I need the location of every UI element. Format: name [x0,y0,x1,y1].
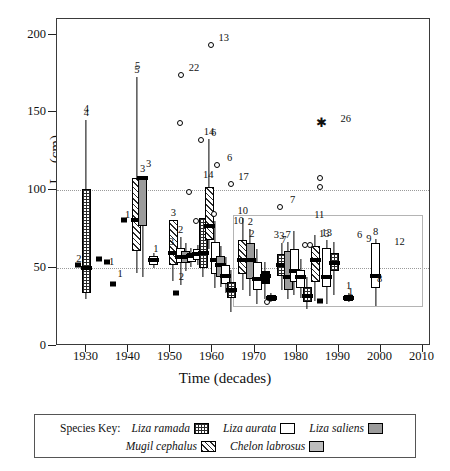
open-circle-point [208,42,214,48]
sample-size-label: 3 [169,237,174,247]
legend-row-2: Mugil cephalusChelon labrosus [41,437,409,455]
x-tick-label: 1970 [231,349,277,364]
sample-size-label: 1 [348,287,353,297]
sample-size-label: 13 [219,33,230,43]
sample-size-label: 9 [366,234,371,244]
box-whisker [330,242,339,295]
sample-size-label: 5 [135,61,140,71]
legend-swatch-saliens [368,423,383,434]
legend-item: Chelon labrosus [230,440,324,452]
x-tick-label: 1930 [62,349,108,364]
open-circle-point [178,72,184,78]
sample-size-label: 26 [340,114,351,124]
sample-size-label: 2 [178,225,183,235]
median-marker [137,176,148,180]
sample-size-label: 3 [171,208,176,218]
sample-size-label: 10 [233,216,244,226]
sample-size-label: 6 [227,153,232,163]
sample-size-label: 7 [281,235,286,245]
sample-size-label: 12 [394,237,405,247]
legend-item: Liza aurata [223,422,295,434]
legend-item-label: Liza ramada [131,422,189,434]
plot-area: ✱ 45332141023713181322661772645332141023… [56,18,430,345]
sample-size-label: 7 [290,195,295,205]
sample-size-label: 2 [248,217,253,227]
open-circle-point [177,120,183,126]
median-marker [198,251,209,255]
legend-item-label: Mugil cephalus [126,440,197,452]
open-circle-point [277,204,283,210]
legend-item-label: Liza aurata [223,422,276,434]
sample-size-label: 6 [357,230,362,240]
filled-square-point [96,256,102,261]
legend-item: Liza saliens [309,422,383,434]
legend-swatch-ramada [194,423,209,434]
species-key-legend: Species Key: Liza ramadaLiza aurataLiza … [34,414,416,458]
box-whisker [227,270,236,312]
y-tick-mark [48,34,56,35]
open-circle-point [186,189,192,195]
sample-size-label: 13 [319,229,330,239]
sample-size-label: 1 [153,244,158,254]
legend-title: Species Key: [60,422,120,434]
legend-swatch-aurata [280,423,295,434]
y-tick-mark [48,267,56,268]
sample-size-label: 3 [146,159,151,169]
filled-square-point [267,295,273,300]
box-whisker [149,253,158,269]
legend-item: Liza ramada [131,422,208,434]
star-point: ✱ [316,120,327,126]
x-tick-label: 1960 [188,349,234,364]
open-circle-point [264,299,270,305]
sample-size-label: 8 [377,274,382,284]
x-tick-label: 1950 [146,349,192,364]
sample-size-label: 2 [179,272,184,282]
median-marker [329,261,340,265]
legend-row-1-items: Liza ramadaLiza aurataLiza saliens [124,422,390,434]
open-circle-point [228,181,234,187]
open-circle-point [317,175,323,181]
x-axis-label: Time (decades) [0,370,450,387]
x-tick-label: 1940 [104,349,150,364]
median-marker [310,258,321,262]
y-tick-mark [48,111,56,112]
open-circle-point [317,184,323,190]
filled-square-point [173,291,179,296]
sample-size-label: 17 [238,172,249,182]
sample-size-label: 11 [314,210,324,220]
legend-item: Mugil cephalus [126,440,216,452]
sample-size-label: 1 [125,210,130,220]
median-marker [260,274,271,278]
legend-swatch-labrosus [309,441,324,452]
legend-item-label: Liza saliens [309,422,364,434]
sample-size-label: 1 [109,257,114,267]
box [311,246,320,282]
y-tick-label: 200 [6,29,46,39]
filled-square-point [110,281,116,286]
x-tick-label: 2000 [357,349,403,364]
open-circle-point [307,242,313,248]
y-tick-mark [48,345,56,346]
legend-swatch-cephalus [201,441,216,452]
y-tick-label: 100 [6,184,46,194]
sample-size-label: 4 [84,104,89,114]
gridline [57,190,429,191]
y-tick-mark [48,189,56,190]
y-tick-label: 50 [6,262,46,272]
y-tick-label: 150 [6,106,46,116]
box-whisker [371,239,380,306]
figure-caption [6,460,446,471]
open-circle-point [211,211,217,217]
open-circle-point [193,218,199,224]
x-tick-label: 1990 [315,349,361,364]
box [138,176,147,226]
median-marker [226,288,237,292]
median-marker [81,266,92,270]
sample-size-label: 8 [373,227,378,237]
box-whisker [138,176,147,277]
sample-size-label: 22 [189,63,200,73]
figure-root: L∞ (cm) 050100150200 ✱ 45332141023713181… [0,0,450,471]
filled-square-point [317,298,323,303]
box [82,189,91,293]
sample-size-label: 2 [249,229,254,239]
